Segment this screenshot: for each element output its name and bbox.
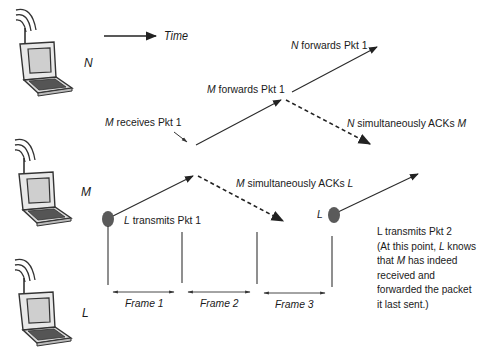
label-l-transmits-1: L transmits Pkt 1 [124, 215, 201, 227]
note-line-5: forwarded the packet [377, 282, 476, 297]
node-n-laptop-icon [16, 9, 72, 96]
note-line-1: L transmits Pkt 2 [377, 224, 476, 239]
note-text: (At this point, [377, 240, 439, 252]
label-n-forwards: N forwards Pkt 1 [291, 40, 368, 52]
l-to-m-arrow [113, 176, 193, 216]
event-text: simultaneously ACKs [354, 117, 457, 129]
object: M [457, 117, 466, 129]
node-label-m: M [81, 186, 91, 198]
note-line-4: received and [377, 268, 476, 283]
event-text: receives Pkt 1 [114, 116, 182, 128]
l-transmit-dot-1 [102, 211, 114, 227]
event-text: forwards Pkt 1 [216, 83, 285, 95]
subject: M [236, 177, 245, 189]
subject: M [105, 116, 114, 128]
note-line-6: it last sent.) [377, 297, 476, 312]
event-text: transmits Pkt 1 [130, 214, 201, 226]
label-l-marker-2: L [317, 209, 323, 221]
event-text: forwards Pkt 1 [298, 39, 367, 51]
label-n-acks-m: N simultaneously ACKs M [347, 118, 466, 130]
object: L [348, 177, 354, 189]
frame-label-3: Frame 3 [275, 299, 314, 311]
note-line-3: that M has indeed [377, 253, 476, 268]
event-text: simultaneously ACKs [245, 177, 348, 189]
note-text: that [377, 254, 397, 266]
label-m-forwards: M forwards Pkt 1 [207, 84, 285, 96]
label-m-receives: M receives Pkt 1 [105, 117, 182, 129]
label-m-acks-l: M simultaneously ACKs L [236, 178, 353, 190]
frame-label-1: Frame 1 [125, 298, 164, 310]
note-line-2: (At this point, L knows [377, 239, 476, 254]
pkt2-note: L transmits Pkt 2 (At this point, L know… [377, 224, 476, 311]
subject: M [207, 83, 216, 95]
m-to-n-arrow [196, 100, 281, 145]
n-forward-arrow [292, 47, 377, 92]
l-transmit-dot-2 [328, 207, 340, 223]
time-label: Time [164, 30, 188, 42]
node-label-l: L [82, 307, 89, 319]
note-node: M [397, 254, 405, 266]
note-text: knows [445, 240, 477, 252]
m-receives-pointer [174, 132, 187, 142]
frame-label-2: Frame 2 [200, 298, 239, 310]
note-text: has indeed [405, 254, 457, 266]
node-label-n: N [84, 57, 93, 69]
node-l-laptop-icon [15, 259, 71, 346]
node-m-laptop-icon [15, 139, 71, 226]
